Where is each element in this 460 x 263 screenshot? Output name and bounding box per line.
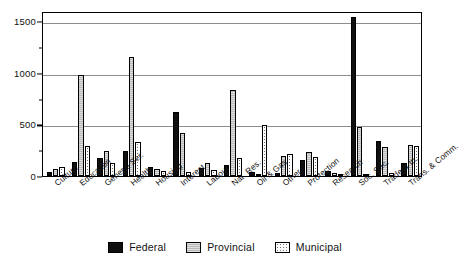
legend-item-provincial: Provincial (186, 242, 255, 253)
legend-label-provincial: Provincial (207, 242, 255, 253)
legend-label-federal: Federal (129, 242, 166, 253)
bar-group (372, 13, 397, 176)
legend-swatch-municipal (275, 242, 290, 253)
bar-group (271, 13, 296, 176)
bar-federal (351, 17, 356, 176)
bar-series-container (43, 13, 421, 176)
bar-group (398, 13, 423, 176)
y-tick-label-1500: 1500 (14, 18, 36, 28)
y-tick-label-0: 0 (31, 172, 36, 182)
x-axis-labels: CultureEducationGeneral Ser.HealthHousin… (42, 177, 422, 237)
legend-item-federal: Federal (108, 242, 166, 253)
legend-item-municipal: Municipal (275, 242, 342, 253)
bar-group (220, 13, 245, 176)
legend-swatch-provincial (186, 242, 201, 253)
bar-provincial (230, 90, 235, 176)
bar-group (170, 13, 195, 176)
bar-group (296, 13, 321, 176)
bar-group (144, 13, 169, 176)
bar-group (246, 13, 271, 176)
chart-legend: FederalProvincialMunicipal (0, 236, 450, 258)
legend-label-municipal: Municipal (296, 242, 342, 253)
bar-group (68, 13, 93, 176)
y-axis: 050010001500 (0, 0, 42, 189)
bar-provincial (306, 152, 311, 176)
bar-group (322, 13, 347, 176)
plot-area (42, 12, 422, 177)
y-tick-label-1000: 1000 (14, 69, 36, 79)
bar-group (94, 13, 119, 176)
bar-provincial (78, 75, 83, 176)
bar-group (43, 13, 68, 176)
y-tick-label-500: 500 (20, 121, 36, 131)
legend-swatch-federal (108, 242, 123, 253)
bar-group (195, 13, 220, 176)
bar-group (347, 13, 372, 176)
bar-federal (47, 172, 52, 176)
